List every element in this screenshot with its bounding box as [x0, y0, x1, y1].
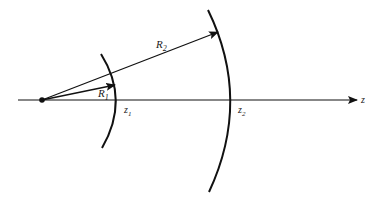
label-z1: z1	[123, 104, 131, 118]
label-z-axis: z	[360, 94, 365, 105]
label-z2: z2	[237, 104, 246, 118]
spherical-wavefront-diagram: R2 R1 z1 z2 z	[0, 0, 371, 203]
label-r2: R2	[155, 38, 167, 53]
wavefront-arc-large	[208, 10, 230, 192]
radius-r2-arrow	[42, 32, 218, 100]
